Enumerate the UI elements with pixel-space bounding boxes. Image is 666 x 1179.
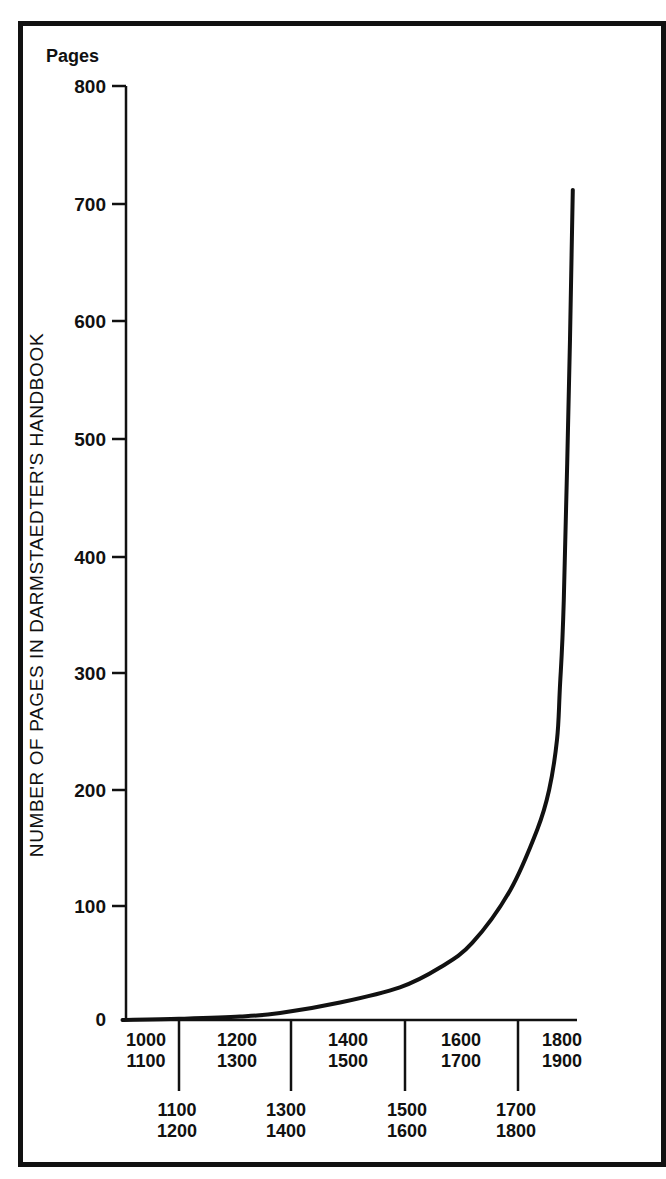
pages-growth-curve bbox=[123, 190, 573, 1020]
y-unit-label: Pages bbox=[46, 46, 99, 66]
y-tick-100: 100 bbox=[74, 896, 106, 917]
x-label-upper-2b: 1500 bbox=[328, 1051, 368, 1071]
x-label-lower-1a: 1300 bbox=[266, 1100, 306, 1120]
y-tick-300: 300 bbox=[74, 663, 106, 684]
x-label-lower-1b: 1400 bbox=[266, 1121, 306, 1141]
x-label-upper-1a: 1200 bbox=[217, 1030, 257, 1050]
y-tick-400: 400 bbox=[74, 547, 106, 568]
x-label-lower-0a: 1100 bbox=[157, 1100, 196, 1120]
x-label-lower-2a: 1500 bbox=[387, 1100, 427, 1120]
x-label-upper-3b: 1700 bbox=[441, 1051, 481, 1071]
x-label-lower-3b: 1800 bbox=[496, 1121, 536, 1141]
x-label-upper-4b: 1900 bbox=[542, 1051, 582, 1071]
x-label-lower-3a: 1700 bbox=[496, 1100, 536, 1120]
y-tick-700: 700 bbox=[74, 194, 106, 215]
y-tick-600: 600 bbox=[74, 311, 106, 332]
x-label-upper-3a: 1600 bbox=[441, 1030, 481, 1050]
y-tick-0: 0 bbox=[95, 1009, 106, 1030]
x-period-labels-upper: 1000 1100 1200 1300 1400 1500 1600 1700 … bbox=[126, 1030, 582, 1071]
x-label-upper-0b: 1100 bbox=[126, 1051, 165, 1071]
x-label-lower-2b: 1600 bbox=[387, 1121, 427, 1141]
y-tick-200: 200 bbox=[74, 780, 106, 801]
x-label-upper-0a: 1000 bbox=[126, 1030, 166, 1050]
x-label-lower-0b: 1200 bbox=[157, 1121, 197, 1141]
x-label-upper-2a: 1400 bbox=[328, 1030, 368, 1050]
x-label-upper-1b: 1300 bbox=[217, 1051, 257, 1071]
x-label-upper-4a: 1800 bbox=[542, 1030, 582, 1050]
y-tick-labels: 800 700 600 500 400 300 200 100 0 bbox=[74, 76, 106, 1030]
y-axis-title: NUMBER OF PAGES IN DARMSTAEDTER'S HANDBO… bbox=[26, 333, 47, 857]
x-period-labels-lower: 1100 1200 1300 1400 1500 1600 1700 1800 bbox=[157, 1100, 536, 1141]
y-ticks bbox=[112, 86, 126, 906]
y-tick-500: 500 bbox=[74, 429, 106, 450]
y-tick-800: 800 bbox=[74, 76, 106, 97]
